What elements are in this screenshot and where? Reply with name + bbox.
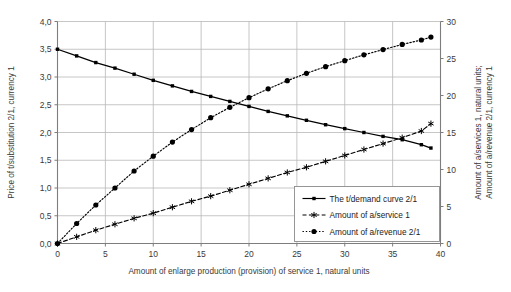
y-axis-left-tick-label: 1,0	[40, 183, 52, 193]
data-point-marker	[428, 121, 433, 127]
x-axis-tick-label: 25	[292, 249, 302, 259]
data-point-marker	[170, 140, 175, 145]
y-axis-left-tick-label: 0,5	[40, 211, 52, 221]
chart-container: 0,00,51,01,52,02,53,03,54,00510152025300…	[0, 0, 511, 292]
data-point-marker	[74, 221, 79, 226]
data-point-marker	[419, 128, 424, 134]
data-point-marker	[266, 86, 271, 91]
legend-item-label: Amount of a/revenue 2/1	[330, 227, 421, 237]
data-point-marker	[343, 127, 346, 130]
y-axis-right-tick-label: 25	[447, 54, 457, 64]
data-point-marker	[323, 64, 328, 69]
data-point-marker	[227, 105, 232, 110]
x-axis-tick-label: 20	[244, 249, 254, 259]
data-point-marker	[208, 115, 213, 120]
x-axis-title: Amount of enlarge production (provision)…	[128, 267, 369, 276]
y-axis-left-tick-label: 3,0	[40, 72, 52, 82]
data-point-marker	[324, 123, 327, 126]
data-point-marker	[246, 95, 251, 100]
y-axis-left-tick-label: 2,5	[40, 100, 52, 110]
x-axis-tick-label: 35	[388, 249, 398, 259]
data-point-marker	[286, 114, 289, 117]
x-axis-tick-label: 10	[149, 249, 159, 259]
y-axis-left-tick-label: 3,5	[40, 44, 52, 54]
data-point-marker	[189, 127, 194, 132]
data-point-marker	[400, 42, 405, 47]
legend-item-label: The t/demand curve 2/1	[330, 194, 418, 204]
data-point-marker	[342, 58, 347, 63]
y-axis-left-title: Price of t/substitution 2/1, currency 1	[7, 66, 16, 199]
data-point-marker	[362, 131, 365, 134]
data-point-marker	[228, 100, 231, 103]
data-point-marker	[209, 95, 212, 98]
legend-item-label: Amount of a/service 1	[330, 210, 411, 220]
data-point-marker	[152, 79, 155, 82]
data-point-marker	[420, 143, 423, 146]
data-point-marker	[94, 61, 97, 64]
data-point-marker	[428, 34, 433, 39]
y-axis-left-tick-label: 1,5	[40, 155, 52, 165]
data-point-marker	[151, 154, 156, 159]
data-point-marker	[56, 48, 59, 51]
data-point-marker	[285, 78, 290, 83]
legend-marker-sample	[312, 197, 315, 200]
y-axis-right-tick-label: 20	[447, 91, 457, 101]
data-point-marker	[112, 185, 117, 190]
x-axis-tick-label: 5	[103, 249, 108, 259]
y-axis-right-tick-label: 5	[447, 202, 452, 212]
data-point-marker	[132, 73, 135, 76]
y-axis-right-title-line2: Amount of a/revenue 2/1, currency 1	[485, 66, 494, 199]
data-point-marker	[132, 168, 137, 173]
y-axis-right-title-line1: Amount of a/services 1, natural units;	[474, 65, 483, 200]
data-point-marker	[266, 110, 269, 113]
data-point-marker	[93, 202, 98, 207]
y-axis-right-tick-label: 30	[447, 17, 457, 27]
data-point-marker	[429, 146, 432, 149]
legend-marker-sample	[311, 229, 316, 234]
x-axis-tick-label: 15	[196, 249, 206, 259]
data-point-marker	[55, 241, 60, 246]
y-axis-right-tick-label: 10	[447, 165, 457, 175]
y-axis-left-tick-label: 2,0	[40, 128, 52, 138]
chart-canvas: 0,00,51,01,52,02,53,03,54,00510152025300…	[0, 0, 511, 292]
chart-legend: The t/demand curve 2/1Amount of a/servic…	[295, 187, 440, 242]
y-axis-left-tick-label: 4,0	[40, 17, 52, 27]
data-point-marker	[305, 119, 308, 122]
data-point-marker	[247, 105, 250, 108]
data-point-marker	[171, 84, 174, 87]
data-point-marker	[419, 37, 424, 42]
x-axis-tick-label: 0	[55, 249, 60, 259]
x-axis-tick-label: 40	[436, 249, 446, 259]
y-axis-left-tick-label: 0,0	[40, 239, 52, 249]
x-axis-tick-label: 30	[340, 249, 350, 259]
data-point-marker	[361, 52, 366, 57]
series-line	[58, 49, 431, 148]
data-point-marker	[74, 234, 79, 240]
y-axis-right-tick-label: 0	[447, 239, 452, 249]
data-point-marker	[113, 66, 116, 69]
data-point-marker	[381, 135, 384, 138]
data-point-marker	[304, 71, 309, 76]
data-point-marker	[380, 47, 385, 52]
y-axis-right-tick-label: 15	[447, 128, 457, 138]
data-point-marker	[190, 90, 193, 93]
series-1	[56, 48, 433, 150]
data-point-marker	[75, 54, 78, 57]
